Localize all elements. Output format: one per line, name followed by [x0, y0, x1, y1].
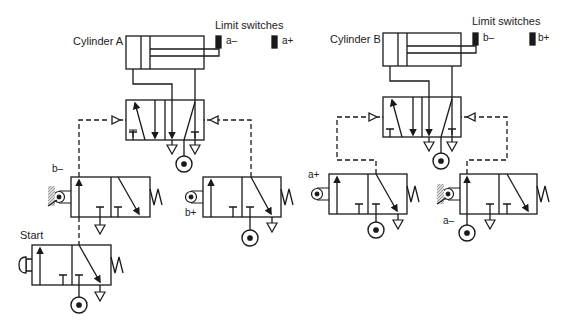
switch-a-plus-label: a+	[282, 36, 293, 46]
valve-b-minus-label: b–	[52, 164, 63, 174]
valve-a-plus-label: a+	[308, 170, 319, 180]
valve-a-minus-label: a–	[443, 216, 454, 226]
switch-b-minus-label: b–	[483, 33, 494, 43]
limit-switch-a-plus-icon	[272, 36, 277, 48]
limit-switch-b-minus-icon	[473, 33, 478, 45]
limit-switches-b-label: Limit switches	[472, 16, 540, 27]
pneumatic-circuit-diagram	[0, 0, 581, 336]
air-supply-icon	[242, 230, 258, 246]
roller-valve-a-plus	[312, 174, 420, 214]
valve-b-plus-label: b+	[185, 208, 196, 218]
cylinder-a-label: Cylinder A	[73, 36, 123, 47]
cylinder-a	[126, 36, 219, 69]
directional-valve-b	[383, 97, 461, 137]
switch-a-minus-label: a–	[226, 36, 237, 46]
roller-valve-a-minus	[437, 174, 549, 214]
start-label: Start	[20, 230, 43, 241]
cylinder-b-label: Cylinder B	[330, 34, 381, 45]
air-supply-icon	[368, 222, 384, 238]
limit-switch-a-minus-icon	[216, 36, 221, 48]
limit-switches-a-label: Limit switches	[215, 20, 283, 31]
air-supply-icon	[176, 156, 192, 172]
air-supply-icon	[459, 225, 475, 241]
start-push-button-valve[interactable]	[19, 245, 123, 285]
roller-valve-b-plus	[186, 177, 294, 217]
directional-valve-a	[126, 100, 204, 140]
switch-b-plus-label: b+	[538, 33, 549, 43]
limit-switch-b-plus-icon	[530, 33, 535, 45]
air-supply-icon	[433, 153, 449, 169]
roller-valve-b-minus	[48, 177, 162, 217]
cylinder-b	[383, 33, 476, 66]
air-supply-icon	[71, 297, 87, 313]
